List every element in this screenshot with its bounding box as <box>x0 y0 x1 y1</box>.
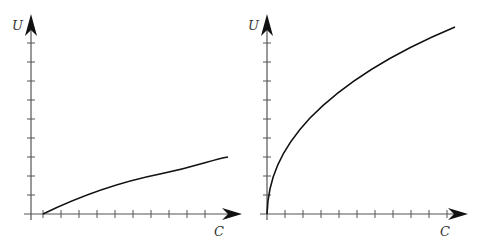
right-chart: U C <box>248 14 468 239</box>
right-x-label: C <box>440 224 450 239</box>
left-curve <box>43 157 228 214</box>
left-chart: U C <box>12 14 242 239</box>
figure: U C U C <box>0 0 478 248</box>
right-curve <box>267 27 455 214</box>
left-x-label: C <box>214 224 224 239</box>
left-y-label: U <box>12 18 24 33</box>
right-y-label: U <box>248 18 260 33</box>
